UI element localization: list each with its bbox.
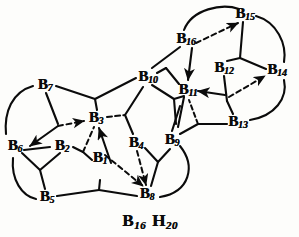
bond-b10-v9 (152, 85, 174, 99)
bond-v8-b11 (166, 68, 179, 84)
bond-b4-v7 (145, 148, 158, 162)
bond-v10-b14 (240, 58, 266, 69)
bond-b15-b14-arc (256, 16, 285, 62)
bond-v1-b10 (95, 78, 136, 99)
bond-b9-v12 (180, 124, 198, 134)
arrow-b16-b15-dashed (196, 23, 238, 43)
bond-v5-b8 (99, 190, 137, 196)
node-label-b6[interactable]: B6 (8, 138, 23, 155)
node-label-b9[interactable]: B9 (165, 132, 180, 149)
arrow-b6-b3-dashed (58, 121, 84, 126)
node-label-b16[interactable]: B16 (176, 31, 195, 48)
chemical-formula-caption: B16H20 (122, 211, 178, 231)
arrow-b13-b11 (198, 91, 225, 95)
bond-b2-v3 (40, 153, 60, 170)
bond-b7-v2 (46, 93, 58, 124)
node-label-b12[interactable]: B12 (214, 60, 233, 77)
node-label-b5[interactable]: B5 (40, 189, 55, 206)
bond-v4-b1 (83, 152, 92, 160)
bond-v6-b4 (125, 115, 133, 134)
node-label-b8[interactable]: B8 (140, 186, 155, 203)
bond-b13-b14-arc (250, 80, 285, 120)
bond-b7-b6-arc (6, 86, 33, 134)
arrow-b16-b11 (188, 48, 192, 80)
bond-b6-v3 (22, 153, 40, 170)
node-label-b10[interactable]: B10 (138, 69, 157, 86)
bond-b5-v5 (57, 190, 99, 196)
bond-b6-b2 (24, 147, 50, 150)
bond-v12-b11-dashed (189, 100, 198, 124)
bond-b7-v1 (56, 86, 95, 99)
arrow-b4-b8-dashed (137, 151, 146, 185)
node-label-b3[interactable]: B3 (89, 110, 104, 127)
node-label-b11[interactable]: B11 (179, 82, 198, 99)
bond-b3-v6-dashed (107, 115, 125, 117)
bond-v7-b9 (158, 149, 170, 162)
node-label-b4[interactable]: B4 (129, 135, 144, 152)
bond-b2-v4 (73, 147, 83, 152)
node-label-b14[interactable]: B14 (267, 62, 286, 79)
bond-b12-v11 (224, 76, 227, 101)
bond-v7-b8 (151, 162, 158, 186)
bond-v5-stub (99, 180, 100, 190)
bond-b15-v10 (240, 22, 243, 58)
node-label-b13[interactable]: B13 (228, 114, 247, 131)
node-label-b7[interactable]: B7 (38, 77, 53, 94)
node-label-b15[interactable]: B15 (235, 6, 254, 23)
bond-b10-b16 (152, 47, 180, 68)
node-label-b2[interactable]: B2 (55, 138, 70, 155)
bond-v3-b5 (40, 170, 45, 189)
bond-v6-b10 (125, 87, 143, 115)
node-label-b1[interactable]: B1 (93, 150, 108, 167)
borane-structure-figure: B1 B2 B3 B4 B5 B6 B7 B8 B9 B10 B11 B12 B… (0, 0, 299, 237)
arrow-b12-b14-dashed (229, 76, 265, 97)
bond-b10-v8 (157, 68, 166, 73)
